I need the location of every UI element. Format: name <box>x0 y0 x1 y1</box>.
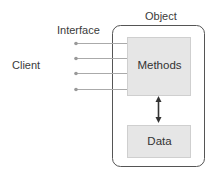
port-dot <box>74 57 78 61</box>
port-dot <box>74 42 78 46</box>
client-label: Client <box>12 59 40 71</box>
data-label: Data <box>128 135 191 147</box>
diagram-canvas <box>0 0 215 176</box>
interface-label: Interface <box>57 24 100 36</box>
methods-label: Methods <box>128 59 191 71</box>
port-dot <box>74 72 78 76</box>
interface-dots <box>74 42 78 92</box>
port-dot <box>74 88 78 92</box>
object-label: Object <box>145 10 177 22</box>
